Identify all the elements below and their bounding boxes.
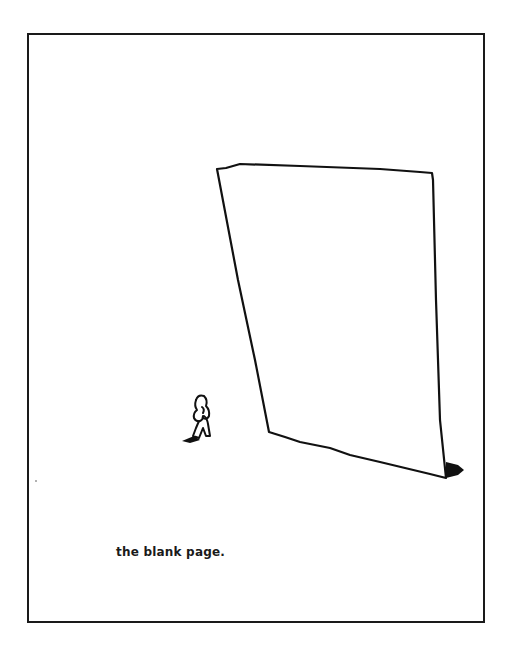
blank-page-drawing [217,164,446,478]
small-figure [193,396,210,439]
page-shadow [446,462,464,478]
cartoon-illustration [0,0,512,646]
cartoon-caption: the blank page. [116,545,225,559]
